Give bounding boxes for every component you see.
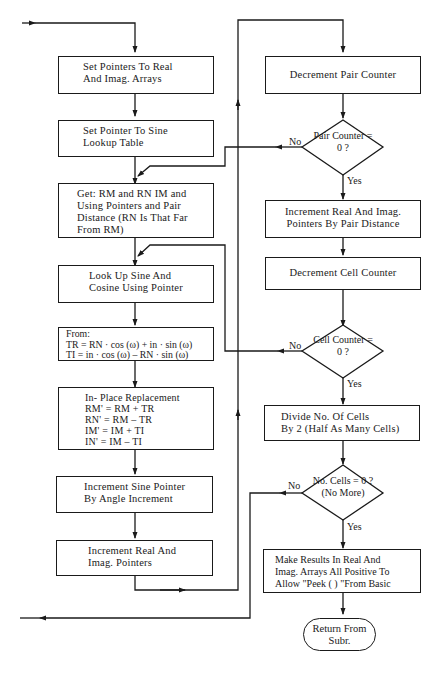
- decision-text: Cells = 0 ?: [330, 475, 373, 486]
- box-text: Increment Real And: [88, 545, 204, 557]
- no-label: No: [288, 480, 300, 491]
- cell-counter-decision: Cell Counter = 0 ?: [313, 334, 373, 357]
- box-text: RM' = RM + TR: [85, 403, 207, 414]
- box-text: In- Place Replacement: [85, 392, 207, 403]
- yes-label: Yes: [347, 378, 362, 389]
- box-text: Imag. Arrays All Positive To: [275, 566, 418, 578]
- box-text: Increment Real And Imag.: [266, 206, 420, 218]
- box-text: By 2 (Half As Many Cells): [281, 423, 415, 435]
- box-text: And Imag. Arrays: [83, 73, 205, 85]
- box-text: TI = in · cos (ω) – RN · sin (ω): [66, 350, 211, 361]
- no-label: No: [289, 340, 301, 351]
- box-text: By Angle Increment: [84, 493, 204, 505]
- cells-zero-decision: No. Cells = 0 ? (No More): [308, 475, 378, 498]
- box-text: Set Pointer To Sine: [83, 125, 205, 137]
- decision-text: (No More): [321, 487, 364, 498]
- decrement-cell-counter-box: Decrement Cell Counter: [265, 257, 421, 290]
- make-results-positive-box: Make Results In Real And Imag. Arrays Al…: [263, 549, 421, 593]
- yes-label: Yes: [347, 521, 362, 532]
- terminal-text: Return: [313, 623, 342, 634]
- box-text: Using Pointers and Pair: [77, 200, 207, 212]
- box-text: IN' = IM – TI: [85, 436, 207, 447]
- box-text: From RM): [77, 224, 207, 236]
- increment-by-pair-distance-box: Increment Real And Imag. Pointers By Pai…: [265, 200, 421, 238]
- decision-text: Counter: [332, 334, 364, 345]
- decision-text: No.: [313, 475, 328, 486]
- box-text: IM' = IM + TI: [85, 425, 207, 436]
- box-text: Distance (RN Is That Far: [77, 212, 207, 224]
- set-pointers-arrays-box: Set Pointers To Real And Imag. Arrays: [58, 56, 214, 94]
- box-text: Divide No. Of Cells: [281, 411, 415, 423]
- yes-label: Yes: [347, 175, 362, 186]
- box-text: Pointers By Pair Distance: [266, 218, 420, 230]
- pair-counter-decision: Pair Counter = 0 ?: [313, 130, 373, 153]
- from-formulas-box: From: TR = RN · cos (ω) + in · sin (ω) T…: [58, 327, 214, 361]
- box-text: Increment Sine Pointer: [84, 481, 204, 493]
- box-text: Look Up Sine And: [89, 270, 207, 282]
- box-text: Imag. Pointers: [88, 557, 204, 569]
- box-text: Allow "Peek ( ) "From Basic: [275, 578, 418, 590]
- box-text: Decrement Pair Counter: [266, 69, 420, 81]
- set-pointer-sine-box: Set Pointer To Sine Lookup Table: [58, 120, 214, 157]
- box-text: Decrement Cell Counter: [266, 267, 420, 279]
- box-text: Get: RM and RN IM and: [77, 188, 207, 200]
- divide-cells-box: Divide No. Of Cells By 2 (Half As Many C…: [264, 405, 420, 441]
- box-text: Lookup Table: [83, 137, 205, 149]
- box-text: Set Pointers To Real: [83, 61, 205, 73]
- decision-text: Pair: [314, 130, 330, 141]
- box-text: Make Results In Real And: [275, 554, 418, 566]
- box-text: From:: [66, 329, 211, 340]
- get-rm-rn-box: Get: RM and RN IM and Using Pointers and…: [58, 183, 214, 238]
- decision-text: Counter: [332, 130, 364, 141]
- box-text: RN' = RM – TR: [85, 414, 207, 425]
- increment-sine-pointer-box: Increment Sine Pointer By Angle Incremen…: [56, 476, 213, 513]
- no-label: No: [289, 136, 301, 147]
- lookup-sine-cosine-box: Look Up Sine And Cosine Using Pointer: [58, 265, 214, 303]
- decision-text: Cell: [313, 334, 330, 345]
- box-text: Cosine Using Pointer: [89, 282, 207, 294]
- increment-real-imag-box: Increment Real And Imag. Pointers: [56, 540, 213, 576]
- in-place-replacement-box: In- Place Replacement RM' = RM + TR RN' …: [58, 387, 214, 450]
- return-from-subr-terminal: Return From Subr.: [303, 618, 376, 651]
- decrement-pair-counter-box: Decrement Pair Counter: [265, 56, 421, 94]
